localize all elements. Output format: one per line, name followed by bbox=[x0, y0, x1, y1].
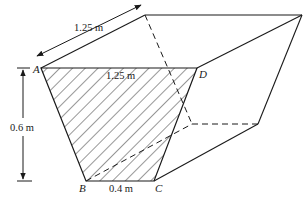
vertex-a-label: A bbox=[32, 63, 40, 75]
depth-dimension-label: 0.6 m bbox=[10, 122, 34, 133]
length-dimension-label: 1.25 m bbox=[74, 22, 103, 33]
top-width-label: 1.25 m bbox=[106, 70, 135, 81]
cross-section-abcd bbox=[41, 68, 197, 181]
vertex-b-label: B bbox=[79, 182, 86, 194]
vertex-c-label: C bbox=[155, 182, 163, 194]
vertex-d-label: D bbox=[198, 68, 207, 80]
bottom-width-label: 0.4 m bbox=[109, 183, 133, 194]
trough-diagram: 1.25 m 1.25 m 0.6 m 0.4 m A D B C bbox=[0, 0, 305, 198]
